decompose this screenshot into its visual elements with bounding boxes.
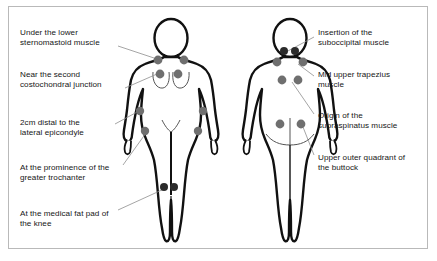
front-left-hand — [125, 140, 131, 154]
tender-point-trapezius-right — [299, 58, 308, 67]
label-suboccipital: Insertion of the suboccipital muscle — [318, 28, 389, 49]
tender-point-sternomastoid-left — [154, 56, 163, 65]
tender-point-epicondyle-left — [136, 107, 144, 115]
tender-point-knee-fat-pad-right — [170, 183, 178, 191]
label-supraspinatus: Origin of the supraspinatus muscle — [318, 111, 397, 132]
tender-point-trapezius-left — [273, 58, 282, 67]
tender-point-sternomastoid-right — [180, 56, 189, 65]
label-upper-outer-buttock: Upper outer quadrant of the buttock — [318, 153, 405, 174]
leader-sternomastoid — [118, 46, 157, 59]
tender-point-supraspinatus-left — [278, 76, 287, 85]
tender-point-costochondral-left — [156, 70, 165, 79]
tender-point-trochanter-right — [194, 127, 202, 135]
front-head — [155, 19, 188, 57]
leader-medial-fat-pad-knee — [118, 189, 164, 210]
tender-point-supraspinatus-right — [294, 76, 303, 85]
tender-point-suboccipital-left — [280, 47, 288, 55]
tender-point-suboccipital-right — [291, 47, 299, 55]
front-right-hand — [211, 140, 217, 154]
label-lateral-epicondyle: 2cm distal to the lateral epicondyle — [20, 118, 84, 139]
label-medial-fat-pad-knee: At the medical fat pad of the knee — [20, 209, 109, 230]
tender-point-trochanter-left — [141, 127, 149, 135]
diagram-frame: Under the lower sternomastoid muscle Nea… — [0, 0, 437, 261]
label-sternomastoid: Under the lower sternomastoid muscle — [20, 28, 100, 49]
label-greater-trochanter: At the prominence of the greater trochan… — [20, 163, 109, 184]
tender-point-costochondral-right — [174, 70, 183, 79]
label-mid-upper-trapezius: Mid upper trapezius muscle — [318, 70, 390, 91]
tender-point-buttock-left — [276, 120, 285, 129]
tender-point-buttock-right — [297, 120, 306, 129]
label-costochondral: Near the second costochondral junction — [20, 70, 102, 91]
tender-point-epicondyle-right — [199, 107, 207, 115]
back-head — [274, 19, 307, 57]
back-left-hand — [244, 140, 250, 154]
tender-point-knee-fat-pad-left — [160, 183, 168, 191]
